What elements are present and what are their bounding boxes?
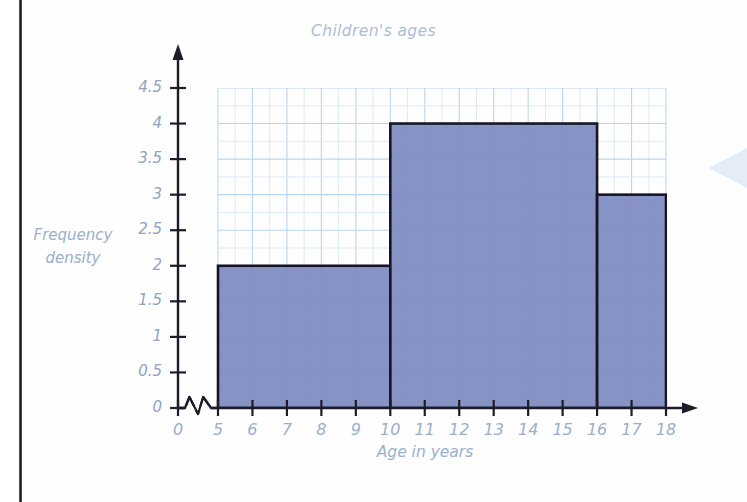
y-axis-title-line2: density [18,247,128,270]
y-axis-tick-label: 4.5 [116,80,162,95]
x-axis-tick-label: 7 [270,422,304,438]
y-axis-tick-label: 1 [116,329,162,344]
y-axis-tick-label: 3 [116,187,162,202]
x-axis-break-zigzag-2 [185,397,211,414]
x-axis-tick-label: 0 [161,422,195,438]
y-axis-title-line1: Frequency [18,224,128,247]
x-axis-tick-label: 17 [615,422,649,438]
x-axis-tick-label: 9 [339,422,373,438]
x-axis-tick-label: 8 [304,422,338,438]
x-axis-break-mask [184,406,212,410]
x-axis-tick-label: 14 [511,422,545,438]
x-axis-tick-label: 16 [580,422,614,438]
x-axis-tick-label: 11 [408,422,442,438]
x-axis-tick-label: 12 [442,422,476,438]
x-axis-tick-label: 10 [373,422,407,438]
x-axis-arrow-icon [682,403,698,414]
x-axis-tick-label: 5 [201,422,235,438]
x-axis-tick-label: 6 [235,422,269,438]
y-axis-tick-label: 4 [116,116,162,131]
y-axis-tick-label: 1.5 [116,293,162,308]
histogram-chart: Children's ages 00.511.522.533.544.5 056… [0,0,747,502]
y-axis-tick-label: 3.5 [116,151,162,166]
x-axis-tick-label: 13 [477,422,511,438]
x-axis-title: Age in years [300,443,550,461]
y-axis-title: Frequency density [18,224,128,269]
y-axis-tick-label: 0 [116,400,162,415]
x-axis-tick-label: 18 [649,422,683,438]
page-corner-arrow-icon [707,146,747,190]
y-axis-arrow-icon [173,44,184,60]
y-axis-tick-label: 0.5 [116,364,162,379]
x-axis-tick-label: 15 [546,422,580,438]
